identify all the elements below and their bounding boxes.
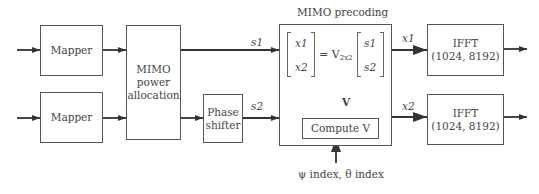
precoding-title: MIMO precoding (297, 6, 388, 18)
ifft-2-params: (1024, 8192) (431, 120, 499, 133)
compute-v-label: Compute V (311, 122, 370, 135)
ifft-2-title: IFFT (453, 107, 479, 120)
mapper-block-1: Mapper (40, 25, 103, 76)
eq-x2: x2 (295, 61, 308, 73)
phase-shifter-line-1: Phase (207, 106, 239, 119)
eq-s2: s2 (364, 61, 376, 73)
rhs-bracket-left (357, 32, 361, 77)
mapper-2-label: Mapper (51, 111, 93, 124)
s2-label: s2 (251, 100, 263, 112)
ifft-block-2: IFFT (1024, 8192) (427, 94, 504, 145)
rhs-bracket-right (380, 32, 384, 77)
eq-operator: = V2x2 (319, 48, 353, 62)
eq-s1: s1 (364, 37, 376, 49)
index-input-label: ψ index, θ index (298, 168, 384, 180)
power-allocation-line-3: allocation (127, 89, 179, 102)
eq-v: = V (319, 48, 340, 61)
ifft-block-1: IFFT (1024, 8192) (427, 24, 504, 76)
mapper-1-label: Mapper (51, 44, 93, 57)
lhs-bracket-right (311, 32, 315, 77)
power-allocation-line-1: MIMO (136, 63, 170, 76)
eq-x1: x1 (295, 37, 308, 49)
v-label: V (342, 96, 350, 108)
x1-label: x1 (402, 32, 415, 44)
mapper-block-2: Mapper (40, 92, 103, 143)
power-allocation-block: MIMO power allocation (126, 25, 181, 140)
power-allocation-line-2: power (137, 76, 170, 89)
compute-v-block: Compute V (302, 118, 379, 139)
s1-label: s1 (251, 36, 263, 48)
eq-subscript: 2x2 (340, 54, 353, 62)
phase-shifter-line-2: shifter (206, 119, 241, 132)
ifft-1-title: IFFT (453, 37, 479, 50)
ifft-1-params: (1024, 8192) (431, 50, 499, 63)
phase-shifter-block: Phase shifter (203, 94, 243, 143)
x2-label: x2 (402, 100, 415, 112)
lhs-bracket-left (287, 32, 291, 77)
